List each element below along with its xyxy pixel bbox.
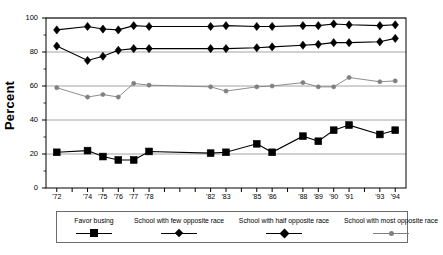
legend-item-swatch: [337, 227, 443, 239]
x-tick-label: '91: [338, 193, 360, 200]
chart-legend: Favor busingSchool with few opposite rac…: [56, 211, 408, 243]
legend-marker-diamond: [175, 229, 183, 237]
legend-item: School with most opposite race: [337, 214, 443, 242]
x-tick-label: '72: [46, 193, 68, 200]
legend-marker-diamond-large: [279, 228, 289, 238]
x-tick-label: '78: [138, 193, 160, 200]
legend-item-swatch: [61, 227, 127, 239]
y-axis-title: Percent: [2, 50, 18, 160]
y-tick-label: 80: [16, 47, 38, 56]
legend-item: School with half opposite race: [231, 214, 337, 242]
legend-item: School with few opposite race: [127, 214, 231, 242]
legend-item-label: School with few opposite race: [127, 214, 231, 226]
y-tick-label: 20: [16, 149, 38, 158]
legend-item: Favor busing: [61, 214, 127, 242]
y-tick-label: 100: [16, 13, 38, 22]
legend-marker-square: [90, 229, 98, 237]
legend-item-swatch: [127, 227, 231, 239]
legend-marker-circle: [389, 231, 394, 236]
legend-item-label: School with half opposite race: [231, 214, 337, 226]
x-tick-label: '94: [384, 193, 406, 200]
y-tick-label: 60: [16, 81, 38, 90]
y-tick-label: 40: [16, 115, 38, 124]
legend-item-label: Favor busing: [61, 214, 127, 226]
x-tick-label: '86: [261, 193, 283, 200]
y-tick-label: 0: [16, 183, 38, 192]
legend-item-swatch: [231, 227, 337, 239]
x-tick-label: '83: [215, 193, 237, 200]
legend-item-label: School with most opposite race: [337, 214, 443, 226]
